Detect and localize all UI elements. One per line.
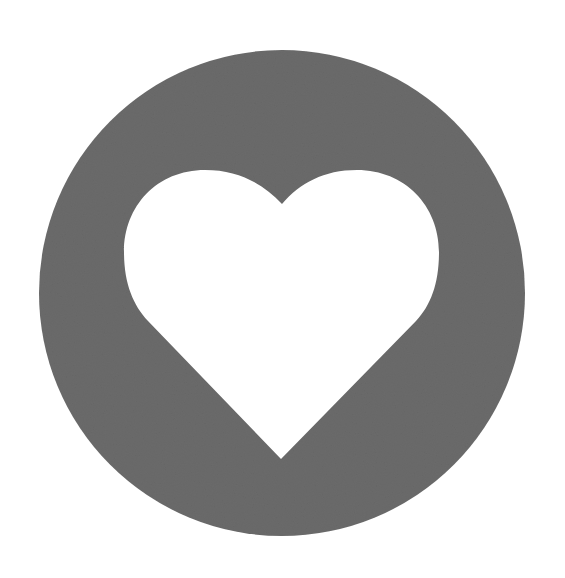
heart-icon bbox=[0, 0, 565, 578]
heart-circle-icon: heart-in-circle bbox=[0, 0, 565, 578]
